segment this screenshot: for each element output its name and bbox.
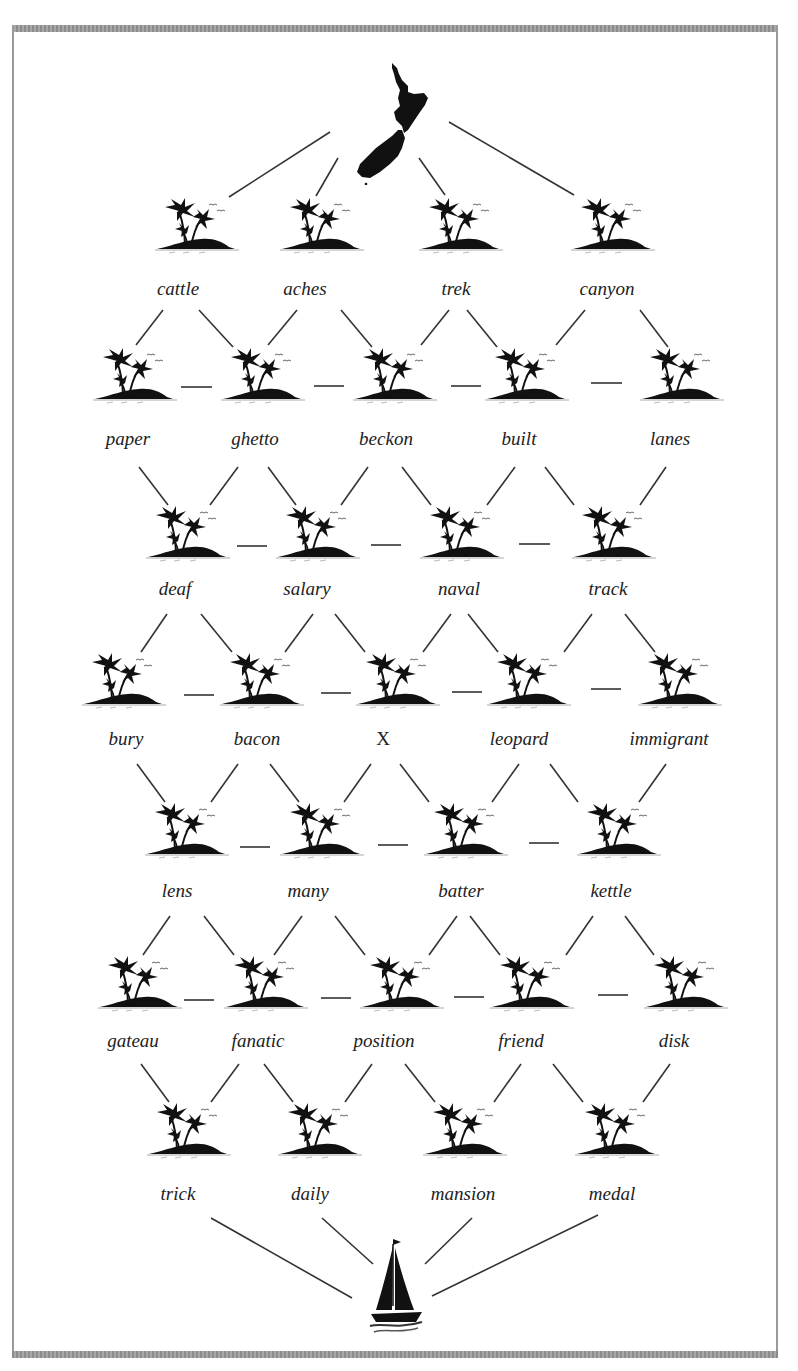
palm-island-icon xyxy=(146,503,230,567)
word-label: position xyxy=(353,1030,414,1052)
palm-island-icon xyxy=(356,650,440,714)
word-label: medal xyxy=(589,1183,635,1205)
palm-island-icon xyxy=(490,953,574,1017)
word-label: cattle xyxy=(157,278,199,300)
word-label: bury xyxy=(109,728,144,750)
word-label: bacon xyxy=(234,728,280,750)
word-label: beckon xyxy=(359,428,413,450)
palm-island-icon xyxy=(278,1100,362,1164)
word-label: lens xyxy=(162,880,193,902)
palm-island-icon xyxy=(419,195,503,259)
word-label: deaf xyxy=(159,578,192,600)
palm-island-icon xyxy=(424,800,508,864)
palm-island-icon xyxy=(276,503,360,567)
word-label: naval xyxy=(438,578,480,600)
palm-island-icon xyxy=(98,953,182,1017)
word-label: lanes xyxy=(650,428,690,450)
palm-island-icon xyxy=(353,345,437,409)
word-label: built xyxy=(502,428,537,450)
word-label: many xyxy=(287,880,328,902)
sailboat-icon xyxy=(366,1238,430,1338)
palm-island-icon xyxy=(82,650,166,714)
word-label: salary xyxy=(283,578,331,600)
palm-island-icon xyxy=(577,800,661,864)
word-label: friend xyxy=(498,1030,543,1052)
word-label: immigrant xyxy=(629,728,708,750)
word-label: trick xyxy=(161,1183,196,1205)
word-label: mansion xyxy=(431,1183,495,1205)
palm-island-icon xyxy=(487,650,571,714)
word-label: leopard xyxy=(490,728,548,750)
word-label: paper xyxy=(106,428,150,450)
new-zealand-map-icon xyxy=(352,60,436,185)
palm-island-icon xyxy=(360,953,444,1017)
word-label: gateau xyxy=(107,1030,159,1052)
palm-island-icon xyxy=(280,195,364,259)
word-label: trek xyxy=(442,278,471,300)
palm-island-icon xyxy=(220,650,304,714)
word-label: canyon xyxy=(580,278,635,300)
palm-island-icon xyxy=(638,650,722,714)
word-label: fanatic xyxy=(232,1030,285,1052)
word-label: batter xyxy=(438,880,483,902)
palm-island-icon xyxy=(572,503,656,567)
palm-island-icon xyxy=(145,800,229,864)
palm-island-icon xyxy=(423,1100,507,1164)
palm-island-icon xyxy=(147,1100,231,1164)
palm-island-icon xyxy=(93,345,177,409)
palm-island-icon xyxy=(224,953,308,1017)
word-label: track xyxy=(588,578,627,600)
palm-island-icon xyxy=(571,195,655,259)
palm-island-icon xyxy=(575,1100,659,1164)
palm-island-icon xyxy=(644,953,728,1017)
palm-island-icon xyxy=(420,503,504,567)
palm-island-icon xyxy=(280,800,364,864)
palm-island-icon xyxy=(485,345,569,409)
word-label: ghetto xyxy=(231,428,279,450)
palm-island-icon xyxy=(155,195,239,259)
word-label: daily xyxy=(291,1183,329,1205)
word-label: aches xyxy=(283,278,326,300)
unknown-word-label: X xyxy=(376,728,390,750)
word-label: kettle xyxy=(590,880,631,902)
word-label: disk xyxy=(659,1030,690,1052)
palm-island-icon xyxy=(221,345,305,409)
palm-island-icon xyxy=(640,345,724,409)
